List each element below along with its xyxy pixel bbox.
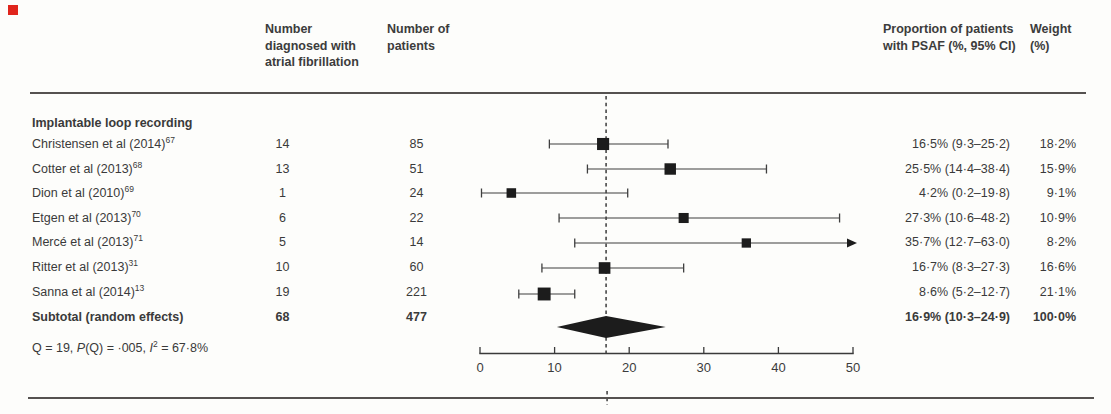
- psaf-ci-value: 27·3% (10·6–48·2): [858, 210, 1010, 227]
- heterogeneity-part: P: [77, 341, 85, 355]
- patient-count: 22: [374, 210, 459, 227]
- study-label: Sanna et al (2014)13: [32, 284, 144, 301]
- section-title: Implantable loop recording: [32, 115, 192, 132]
- effect-size-square: [538, 288, 551, 301]
- reference-superscript: 69: [124, 184, 133, 194]
- subtotal-label: Subtotal (random effects): [32, 309, 183, 326]
- study-label: Cotter et al (2013)68: [32, 161, 142, 178]
- forest-plot-figure: Number diagnosed with atrial fibrillatio…: [0, 0, 1111, 414]
- subtotal-af-count: 68: [240, 309, 325, 326]
- effect-size-square: [597, 138, 609, 150]
- x-axis-tick-label: 10: [547, 360, 561, 375]
- weight-value: 10·9%: [994, 210, 1076, 227]
- psaf-ci-value: 8·6% (5·2–12·7): [858, 284, 1010, 301]
- psaf-ci-value: 25·5% (14·4–38·4): [858, 161, 1010, 178]
- effect-size-square: [665, 163, 676, 174]
- bottom-rule: [28, 397, 1094, 399]
- column-header-weight: Weight (%): [1030, 21, 1085, 54]
- x-axis-tick-label: 50: [846, 360, 860, 375]
- effect-size-square: [742, 238, 751, 247]
- weight-value: 18·2%: [994, 136, 1076, 153]
- weight-value: 8·2%: [994, 234, 1076, 251]
- weight-value: 21·1%: [994, 284, 1076, 301]
- subtotal-diamond: [557, 316, 666, 338]
- reference-superscript: 31: [129, 258, 138, 268]
- effect-size-square: [679, 213, 689, 223]
- psaf-ci-value: 4·2% (0·2–19·8): [858, 185, 1010, 202]
- reference-superscript: 70: [131, 209, 140, 219]
- weight-value: 16·6%: [994, 259, 1076, 276]
- study-label: Etgen et al (2013)70: [32, 210, 141, 227]
- study-label: Dion et al (2010)69: [32, 185, 134, 202]
- weight-value: 9·1%: [994, 185, 1076, 202]
- column-header-patients: Number of patients: [387, 21, 459, 54]
- x-axis-tick-label: 0: [476, 360, 483, 375]
- column-header-af: Number diagnosed with atrial fibrillatio…: [265, 21, 377, 71]
- patient-count: 85: [374, 136, 459, 153]
- column-header-psaf: Proportion of patients with PSAF (%, 95%…: [883, 21, 1035, 54]
- heterogeneity-part: = 67·8%: [158, 341, 208, 355]
- af-count: 13: [240, 161, 325, 178]
- subtotal-weight-value: 100·0%: [994, 309, 1076, 326]
- psaf-ci-value: 16·5% (9·3–25·2): [858, 136, 1010, 153]
- study-label: Christensen et al (2014)67: [32, 136, 175, 153]
- figure-bullet-marker: [8, 5, 18, 15]
- af-count: 1: [240, 185, 325, 202]
- af-count: 19: [240, 284, 325, 301]
- patient-count: 14: [374, 234, 459, 251]
- subtotal-psaf-ci-value: 16·9% (10·3–24·9): [858, 309, 1010, 326]
- heterogeneity-stats: Q = 19, P(Q) = ·005, I2 = 67·8%: [32, 340, 208, 357]
- header-divider-rule: [30, 92, 1086, 94]
- af-count: 6: [240, 210, 325, 227]
- patient-count: 24: [374, 185, 459, 202]
- psaf-ci-value: 16·7% (8·3–27·3): [858, 259, 1010, 276]
- ci-arrow-offscale: [847, 239, 857, 248]
- heterogeneity-part: (Q) = ·005,: [85, 341, 149, 355]
- af-count: 10: [240, 259, 325, 276]
- patient-count: 60: [374, 259, 459, 276]
- af-count: 14: [240, 136, 325, 153]
- weight-value: 15·9%: [994, 161, 1076, 178]
- study-label: Ritter et al (2013)31: [32, 259, 138, 276]
- effect-size-square: [599, 262, 611, 274]
- reference-superscript: 67: [165, 135, 174, 145]
- x-axis-tick-label: 40: [771, 360, 785, 375]
- x-axis-tick-label: 20: [622, 360, 636, 375]
- effect-size-square: [507, 188, 517, 198]
- subtotal-patient-count: 477: [374, 309, 459, 326]
- x-axis-tick-label: 30: [697, 360, 711, 375]
- patient-count: 221: [374, 284, 459, 301]
- study-label: Mercé et al (2013)71: [32, 234, 143, 251]
- reference-superscript: 13: [135, 283, 144, 293]
- reference-superscript: 68: [133, 160, 142, 170]
- psaf-ci-value: 35·7% (12·7–63·0): [858, 234, 1010, 251]
- patient-count: 51: [374, 161, 459, 178]
- heterogeneity-part: Q = 19,: [32, 341, 77, 355]
- reference-superscript: 71: [133, 233, 142, 243]
- af-count: 5: [240, 234, 325, 251]
